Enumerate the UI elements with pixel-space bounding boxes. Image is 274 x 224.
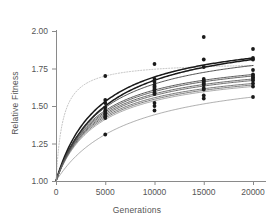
x-tick-label: 10000 [143,187,167,197]
scatter-point [103,101,107,105]
x-tick-label: 0 [54,187,59,197]
scatter-point [103,133,107,137]
scatter-point [153,104,157,108]
fitness-curve [56,58,253,181]
fitness-curve [56,85,253,181]
scatter-point [251,58,255,62]
x-tick-label: 15000 [192,187,216,197]
axes-group [56,30,266,182]
scatter-point [251,68,255,72]
fitness-trajectory-figure: 1.001.251.501.752.00 0500010000150002000… [0,0,274,224]
y-ticks-group: 1.001.251.501.752.00 [31,26,57,186]
scatter-point [251,85,255,89]
x-tick-label: 20000 [241,187,265,197]
plot-area: 1.001.251.501.752.00 0500010000150002000… [0,0,274,224]
curves-group [56,58,253,181]
scatter-point [251,95,255,99]
scatter-point [153,92,157,96]
scatter-point [202,35,206,39]
x-tick-label: 5000 [96,187,115,197]
x-axis-label: Generations [0,205,274,215]
y-tick-label: 1.50 [31,101,48,111]
y-tick-label: 2.00 [31,26,48,36]
x-ticks-group: 05000100001500020000 [54,181,265,197]
y-tick-label: 1.75 [31,64,48,74]
scatter-point [103,116,107,120]
y-tick-label: 1.25 [31,139,48,149]
y-axis-label: Relative Fitness [10,58,20,148]
scatter-point [103,74,107,78]
scatter-point [202,88,206,92]
scatter-point [202,97,206,101]
scatter-point [202,65,206,69]
scatter-point [153,62,157,66]
scatter-point [251,47,255,51]
scatter-point [153,109,157,113]
scatter-point [202,58,206,62]
y-tick-label: 1.00 [31,176,48,186]
